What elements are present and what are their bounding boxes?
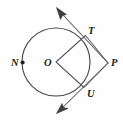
geometry-figure: N O T P U	[0, 0, 123, 120]
point-label-u: U	[87, 88, 96, 99]
point-label-p: P	[111, 57, 118, 68]
point-label-n: N	[10, 57, 19, 68]
point-label-o: O	[44, 57, 52, 68]
tangent-ray-through-t	[58, 9, 109, 63]
point-label-t: T	[88, 25, 95, 36]
arrowhead-lower-left-icon	[57, 104, 69, 114]
point-dot-n	[21, 60, 25, 64]
figure-canvas: N O T P U	[0, 0, 123, 120]
quadrilateral-otpu	[56, 36, 108, 88]
